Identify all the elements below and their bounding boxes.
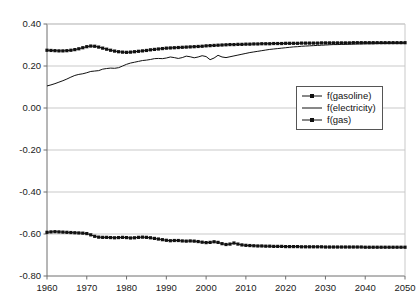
series-layer (45, 41, 406, 249)
y-tick-label: 0.40 (23, 19, 42, 29)
x-tick-label: 2050 (385, 283, 416, 293)
legend-item-electricity[interactable]: f(electricity) (301, 102, 377, 114)
x-tick-label: 1980 (107, 283, 147, 293)
legend-label-electricity: f(electricity) (327, 103, 376, 113)
legend-label-gasoline: f(gasoline) (327, 91, 371, 101)
y-tick-label: -0.40 (19, 187, 41, 197)
chart-plot (0, 0, 416, 302)
x-tick-label: 2020 (266, 283, 306, 293)
x-tick-label: 1970 (67, 283, 107, 293)
legend-item-gasoline[interactable]: f(gasoline) (301, 90, 377, 102)
chart-container: 0.400.200.00-0.20-0.40-0.60-0.80 1960197… (0, 0, 416, 302)
x-tick-label: 2030 (305, 283, 345, 293)
legend-swatch-electricity (301, 103, 323, 113)
chart-legend[interactable]: f(gasoline) f(electricity) f(gas) (296, 86, 383, 130)
legend-item-gas[interactable]: f(gas) (301, 114, 377, 126)
legend-label-gas: f(gas) (327, 115, 351, 125)
y-tick-label: -0.60 (19, 229, 41, 239)
x-tick-label: 2040 (345, 283, 385, 293)
axis-ticks (44, 24, 406, 280)
y-tick-label: 0.00 (23, 103, 42, 113)
x-tick-label: 2010 (226, 283, 266, 293)
x-tick-label: 1990 (146, 283, 186, 293)
x-tick-label: 2000 (186, 283, 226, 293)
legend-swatch-gasoline (301, 91, 323, 101)
y-tick-label: -0.20 (19, 145, 41, 155)
y-tick-label: -0.80 (19, 271, 41, 281)
legend-swatch-gas (301, 115, 323, 125)
y-tick-label: 0.20 (23, 61, 42, 71)
x-tick-label: 1960 (27, 283, 67, 293)
